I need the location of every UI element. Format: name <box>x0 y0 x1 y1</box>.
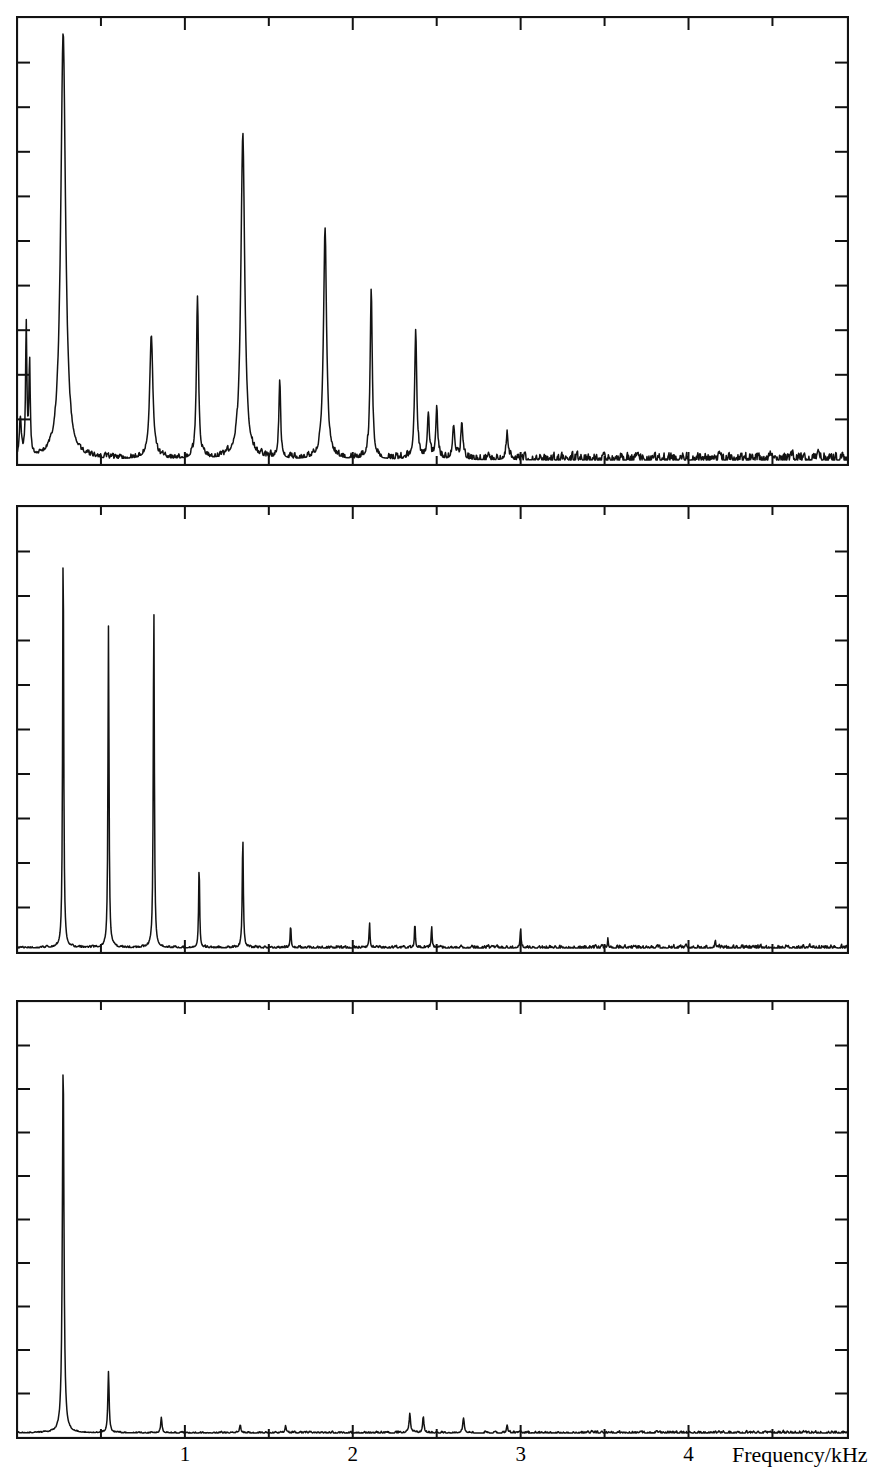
x-tick-label-2: 2 <box>348 1442 359 1467</box>
axis-ticks <box>17 506 848 953</box>
plot-frame <box>17 1001 848 1438</box>
x-tick-label-1: 1 <box>180 1442 191 1467</box>
spectrum-plot-panel-top <box>16 16 849 466</box>
spectrum-panel-top <box>16 16 849 466</box>
axis-ticks <box>17 1001 848 1438</box>
plot-frame <box>17 506 848 953</box>
spectrum-plot-panel-middle <box>16 505 849 954</box>
spectrum-trace <box>17 1075 848 1433</box>
x-tick-label-4: 4 <box>683 1442 694 1467</box>
spectra-figure: 1234 Frequency/kHz <box>0 0 870 1483</box>
spectrum-panel-middle <box>16 505 849 954</box>
spectrum-panel-bottom <box>16 1000 849 1439</box>
spectrum-plot-panel-bottom <box>16 1000 849 1439</box>
axis-ticks <box>17 17 848 465</box>
plot-frame <box>17 17 848 465</box>
x-axis-title: Frequency/kHz <box>732 1442 868 1468</box>
spectrum-trace <box>17 34 848 460</box>
spectrum-trace <box>17 568 848 948</box>
x-tick-label-3: 3 <box>515 1442 526 1467</box>
